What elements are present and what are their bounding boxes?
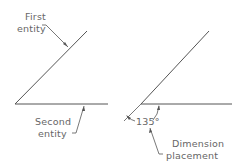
angle-dimension-value: 135° [136, 116, 160, 127]
dimension-placement-label-line1: Dimension [172, 138, 224, 149]
first-entity-label-line1: First [25, 11, 46, 22]
first-entity-label-line2: entity [17, 23, 46, 34]
second-entity-label-line2: entity [38, 128, 67, 139]
angle-first-line [141, 31, 209, 104]
second-entity-label-line1: Second [35, 116, 71, 127]
second-entity-leader [72, 106, 84, 133]
first-entity-line [15, 31, 87, 104]
dimension-placement-label-line2: placement [166, 150, 218, 161]
arc-arrow-right-icon [157, 105, 160, 110]
